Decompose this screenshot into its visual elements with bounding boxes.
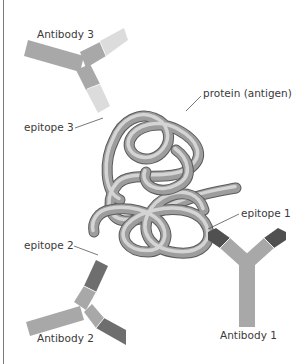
antibody-3 <box>24 28 128 113</box>
antibody-3-stem <box>24 40 84 72</box>
epitope-1-leader <box>208 214 239 229</box>
antibody-2-upper-tip <box>84 260 108 292</box>
diagram-frame: Antibody 3 epitope 3 protein (antigen) <box>0 0 308 364</box>
antibody-2-label: Antibody 2 <box>37 332 94 344</box>
protein-leader <box>186 96 201 111</box>
antibody-1-label: Antibody 1 <box>220 329 277 341</box>
protein-label: protein (antigen) <box>203 87 292 99</box>
antibody-epitope-diagram: Antibody 3 epitope 3 protein (antigen) <box>0 0 308 364</box>
antibody-1-stem <box>239 257 255 327</box>
epitope-1-label: epitope 1 <box>241 207 291 219</box>
antibody-3-label: Antibody 3 <box>37 28 94 40</box>
antibody-1 <box>208 228 286 327</box>
epitope-3-label: epitope 3 <box>24 121 74 133</box>
epitope-2-label: epitope 2 <box>24 239 74 251</box>
epitope-3-leader <box>75 118 103 128</box>
epitope-2-leader <box>74 246 98 255</box>
